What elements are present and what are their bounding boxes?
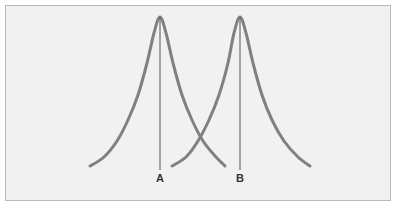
curve-b-path (172, 17, 310, 166)
distribution-chart: A B (0, 0, 397, 207)
curve-a-path (90, 17, 225, 166)
label-a: A (156, 172, 164, 184)
figure-root: A B (0, 0, 397, 207)
label-b: B (236, 172, 244, 184)
